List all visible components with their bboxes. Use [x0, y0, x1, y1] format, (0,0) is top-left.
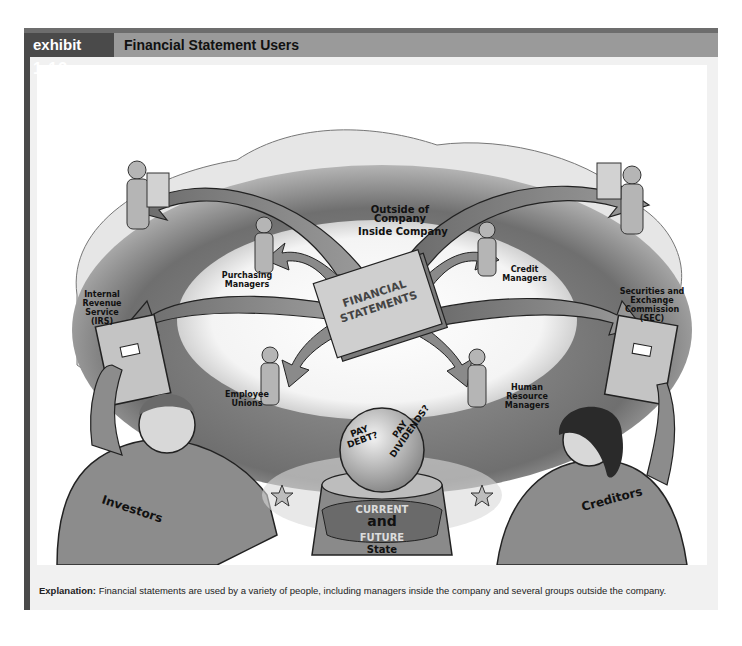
label-sec: Securities and Exchange Commission (SEC)	[617, 287, 687, 323]
zone-label-inside: Inside Company	[353, 227, 453, 236]
exhibit-tag-prefix: exhibit	[33, 36, 81, 53]
band-future: FUTURE	[347, 533, 417, 542]
exhibit-title: Financial Statement Users	[124, 33, 299, 57]
exhibit-header: exhibit 1.13 Financial Statement Users	[24, 33, 718, 57]
caption-label: Explanation:	[39, 585, 96, 596]
label-purchasing-managers: Purchasing Managers	[217, 271, 277, 289]
exhibit-tag: exhibit 1.13	[24, 33, 114, 57]
explanation-caption: Explanation: Financial statements are us…	[39, 585, 666, 596]
label-human-resource-managers: Human Resource Managers	[497, 383, 557, 410]
band-state: State	[352, 545, 412, 554]
label-employee-unions: Employee Unions	[222, 390, 272, 408]
financial-users-illustration: FINANCIAL STATEMENTS	[37, 65, 707, 565]
exhibit-frame: exhibit 1.13 Financial Statement Users	[24, 28, 718, 610]
band-and: and	[347, 517, 417, 526]
illustration-panel: FINANCIAL STATEMENTS	[37, 65, 707, 565]
label-irs: Internal Revenue Service (IRS)	[77, 290, 127, 326]
label-credit-managers: Credit Managers	[497, 265, 552, 283]
frame-left-bar	[24, 28, 30, 610]
caption-text: Financial statements are used by a varie…	[96, 585, 666, 596]
zone-label-outside: Outside of Company	[345, 205, 455, 223]
